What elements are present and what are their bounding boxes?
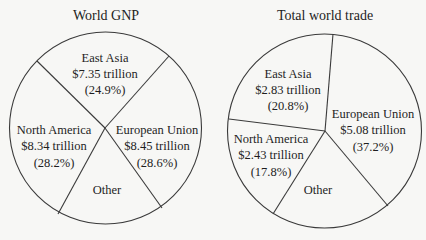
slice-label: North America [234,132,309,146]
slice-percent: (17.8%) [251,165,292,179]
slice-label: Other [93,183,122,197]
slice-label: Other [304,183,333,197]
gnp-slice-other: Other [93,183,122,197]
trade-slice-european-union: European Union $5.08 trillion (37.2%) [332,107,415,154]
slice-percent: (28.6%) [137,156,178,170]
slice-label: North America [17,123,92,137]
world-trade-title: Total world trade [277,8,373,23]
gnp-slice-european-union: European Union $8.45 trillion (28.6%) [116,123,199,170]
slice-label: East Asia [82,51,129,65]
trade-slice-other: Other [304,183,333,197]
world-gnp-pie: World GNP East Asia $7.35 trillion (24.9… [10,8,202,224]
slice-value: $7.35 trillion [72,67,138,81]
slice-label: East Asia [265,67,312,81]
world-trade-pie: Total world trade East Asia $2.83 trilli… [228,8,422,228]
slice-value: $5.08 trillion [340,123,406,137]
slice-percent: (37.2%) [353,140,394,154]
slice-percent: (24.9%) [85,83,126,97]
gnp-slice-east-asia: East Asia $7.35 trillion (24.9%) [72,51,138,97]
slice-label: European Union [332,107,415,121]
trade-slice-east-asia: East Asia $2.83 trillion (20.8%) [255,67,321,113]
slice-percent: (20.8%) [268,99,309,113]
world-gnp-title: World GNP [73,8,139,23]
slice-value: $8.34 trillion [21,139,87,153]
pie-charts-figure: World GNP East Asia $7.35 trillion (24.9… [0,0,426,240]
gnp-slice-north-america: North America $8.34 trillion (28.2%) [17,123,92,170]
trade-slice-north-america: North America $2.43 trillion (17.8%) [234,132,309,179]
trade-divider-ea-na [229,119,325,131]
slice-value: $8.45 trillion [124,139,190,153]
slice-value: $2.43 trillion [238,148,304,162]
slice-label: European Union [116,123,199,137]
slice-value: $2.83 trillion [255,83,321,97]
slice-percent: (28.2%) [34,156,75,170]
